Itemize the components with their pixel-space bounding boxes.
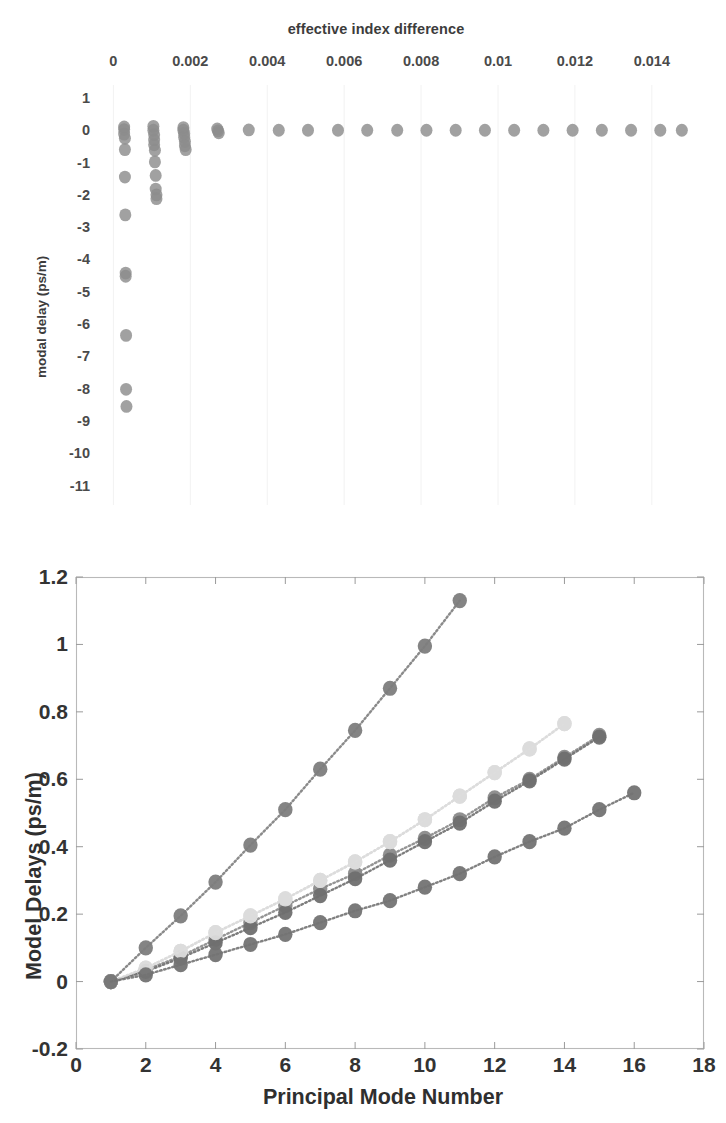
top-chart-y-tick-0: 1 <box>0 90 90 106</box>
bottom-chart-data-point <box>383 853 397 868</box>
bottom-chart-data-point <box>557 751 571 766</box>
top-chart-data-point <box>119 132 131 145</box>
bottom-chart-data-point <box>557 716 571 731</box>
bottom-chart-data-point <box>383 681 397 696</box>
top-chart-data-point <box>213 126 225 139</box>
bottom-chart-data-point <box>278 802 292 817</box>
bottom-chart-data-point <box>243 908 257 923</box>
top-chart-data-point <box>243 124 255 137</box>
bottom-chart-data-point <box>208 947 222 962</box>
bottom-chart-data-point <box>522 834 536 849</box>
bottom-chart-data-point <box>487 794 501 809</box>
top-chart-data-point <box>120 270 132 283</box>
bottom-chart-data-point <box>313 915 327 930</box>
bottom-chart-data-point <box>453 816 467 831</box>
top-chart-data-point <box>120 400 132 413</box>
top-chart-data-point <box>180 143 192 156</box>
bottom-chart-data-point <box>104 974 118 989</box>
bottom-chart-y-axis-label: Model Delays (ps/m) <box>22 772 47 980</box>
bottom-chart-data-point <box>418 880 432 895</box>
bottom-chart-y-tick-7: 1.2 <box>0 565 68 589</box>
bottom-chart-x-tick-6: 12 <box>483 1053 506 1077</box>
bottom-chart-data-point <box>383 893 397 908</box>
top-chart-data-point <box>450 124 462 137</box>
bottom-chart-x-tick-4: 8 <box>349 1053 361 1077</box>
top-chart-data-point <box>302 124 314 137</box>
bottom-chart-data-point <box>243 837 257 852</box>
top-chart-plot-area <box>98 85 698 505</box>
bottom-chart-data-point <box>522 741 536 756</box>
bottom-chart-x-tick-8: 16 <box>623 1053 646 1077</box>
bottom-chart-x-tick-0: 0 <box>70 1053 82 1077</box>
bottom-chart-data-point <box>557 821 571 836</box>
bottom-chart-panel: -0.200.20.40.60.811.2 024681012141618 Mo… <box>0 560 726 1123</box>
bottom-chart-data-point <box>418 639 432 654</box>
top-chart-data-point <box>119 171 131 184</box>
bottom-chart-data-point <box>278 927 292 942</box>
bottom-chart-data-point <box>313 888 327 903</box>
top-chart-data-point <box>332 124 344 137</box>
top-chart-data-point <box>596 124 608 137</box>
bottom-chart-data-point <box>278 891 292 906</box>
top-chart-data-point <box>361 124 373 137</box>
top-chart-y-tick-11: -10 <box>0 445 90 461</box>
bottom-chart-data-point <box>173 908 187 923</box>
top-chart-y-tick-3: -2 <box>0 187 90 203</box>
bottom-chart-data-point <box>418 834 432 849</box>
top-chart-y-axis-label: modal delay (ps/m) <box>34 256 49 378</box>
bottom-chart-data-point <box>173 957 187 972</box>
top-chart-data-point <box>120 383 132 396</box>
top-chart-y-tick-1: 0 <box>0 122 90 138</box>
top-chart-panel: effective index difference 00.0020.0040.… <box>0 0 726 560</box>
bottom-chart-data-point <box>243 937 257 952</box>
top-chart-data-point <box>625 124 637 137</box>
bottom-chart-x-tick-9: 18 <box>692 1053 715 1077</box>
bottom-chart-data-point <box>487 849 501 864</box>
top-chart-y-tick-4: -3 <box>0 219 90 235</box>
bottom-chart-data-point <box>313 873 327 888</box>
bottom-chart-data-point <box>453 866 467 881</box>
bottom-chart-plot-area <box>76 577 704 1049</box>
top-chart-y-tick-9: -8 <box>0 381 90 397</box>
bottom-chart-data-point <box>313 762 327 777</box>
bottom-chart-data-point <box>348 723 362 738</box>
bottom-chart-frame <box>77 578 704 1049</box>
top-chart-data-point <box>149 144 161 157</box>
bottom-chart-data-point <box>453 789 467 804</box>
bottom-chart-data-point <box>487 765 501 780</box>
bottom-chart-data-point <box>139 967 153 982</box>
top-chart-data-point <box>676 124 688 137</box>
top-chart-data-point <box>149 155 161 168</box>
bottom-chart-data-point <box>522 773 536 788</box>
bottom-chart-data-point <box>592 802 606 817</box>
bottom-chart-data-point <box>453 593 467 608</box>
bottom-chart-y-tick-0: -0.2 <box>0 1037 68 1061</box>
top-chart-data-point <box>150 192 162 205</box>
bottom-chart-data-point <box>278 905 292 920</box>
top-chart-data-point <box>273 124 285 137</box>
top-chart-y-tick-12: -11 <box>0 478 90 494</box>
bottom-chart-data-point <box>139 940 153 955</box>
bottom-chart-x-tick-5: 10 <box>413 1053 436 1077</box>
top-chart-data-point <box>420 124 432 137</box>
bottom-chart-data-point <box>348 854 362 869</box>
bottom-chart-x-tick-3: 6 <box>279 1053 291 1077</box>
bottom-chart-data-point <box>418 812 432 827</box>
top-chart-data-point <box>567 124 579 137</box>
bottom-chart-x-axis-label: Principal Mode Number <box>0 1085 726 1110</box>
bottom-chart-y-tick-5: 0.8 <box>0 700 68 724</box>
bottom-chart-y-tick-6: 1 <box>0 632 68 656</box>
bottom-chart-data-point <box>173 944 187 959</box>
top-chart-data-point <box>119 143 131 156</box>
bottom-chart-data-point <box>208 925 222 940</box>
bottom-chart-x-tick-2: 4 <box>210 1053 222 1077</box>
top-chart-y-tick-10: -9 <box>0 413 90 429</box>
top-chart-data-point <box>537 124 549 137</box>
top-chart-data-point <box>508 124 520 137</box>
bottom-chart-data-point <box>592 730 606 745</box>
top-chart-data-point <box>120 329 132 342</box>
bottom-chart-x-tick-1: 2 <box>140 1053 152 1077</box>
bottom-chart-x-tick-7: 14 <box>553 1053 576 1077</box>
top-chart-data-point <box>119 208 131 221</box>
top-chart-data-point <box>150 169 162 182</box>
